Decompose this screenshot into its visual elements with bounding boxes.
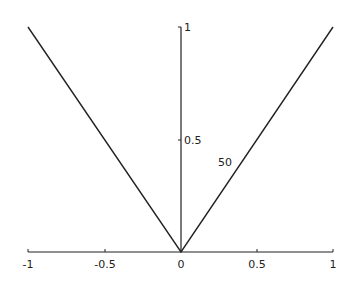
curve-label: 50 bbox=[218, 156, 232, 169]
x-tick-label: -1 bbox=[23, 258, 34, 271]
x-tick-label: 1 bbox=[330, 258, 337, 271]
x-tick-label: 0.5 bbox=[248, 258, 266, 271]
x-tick-label: -0.5 bbox=[94, 258, 115, 271]
y-tick-label: 0.5 bbox=[184, 134, 202, 147]
x-tick-label: 0 bbox=[178, 258, 185, 271]
y-tick-label: 1 bbox=[184, 21, 191, 34]
chart: -1 -0.5 0 0.5 1 1 0.5 50 bbox=[0, 0, 351, 294]
